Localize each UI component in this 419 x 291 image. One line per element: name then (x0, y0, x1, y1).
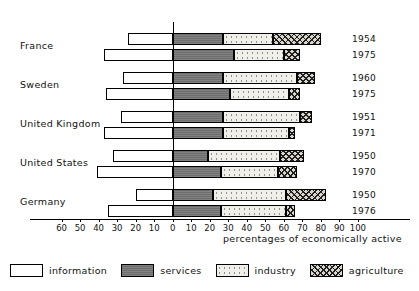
x-axis-tick-label: 30 (107, 223, 127, 233)
chart-legend: informationservicesindustryagriculture (10, 258, 410, 282)
bar-segment-services (173, 150, 208, 162)
bar-segment-agriculture (300, 111, 311, 123)
x-axis-tick-label: 100 (348, 223, 368, 233)
x-axis-tick (191, 219, 192, 222)
bar-row (0, 205, 419, 217)
bar-row (0, 33, 419, 45)
x-axis-tick-label: 60 (274, 223, 294, 233)
legend-item-services: services (121, 264, 201, 277)
x-axis-tick-label: 40 (89, 223, 109, 233)
x-axis-tick (80, 219, 81, 222)
x-axis-tick (173, 219, 174, 222)
bar-segment-information (121, 111, 173, 123)
bar-row (0, 49, 419, 61)
bar-segment-information (128, 33, 172, 45)
bar-segment-information (106, 88, 173, 100)
x-axis-tick-label: 20 (200, 223, 220, 233)
bar-segment-industry (221, 205, 286, 217)
bar-segment-services (173, 72, 223, 84)
x-axis-tick-label: 30 (218, 223, 238, 233)
x-axis-tick-label: 50 (255, 223, 275, 233)
bar-segment-agriculture (278, 166, 297, 178)
x-axis-title: percentages of economically active (223, 233, 402, 244)
bar-segment-industry (223, 33, 273, 45)
bar-row (0, 88, 419, 100)
x-axis-tick (228, 219, 229, 222)
bar-row (0, 166, 419, 178)
x-axis-tick-label: 90 (329, 223, 349, 233)
legend-swatch-services (121, 264, 154, 277)
bar-segment-services (173, 111, 223, 123)
bar-segment-information (97, 166, 173, 178)
x-axis-tick-label: 70 (292, 223, 312, 233)
bar-row (0, 72, 419, 84)
x-axis-tick (339, 219, 340, 222)
x-axis-tick (265, 219, 266, 222)
bar-segment-industry (234, 49, 284, 61)
bar-row (0, 127, 419, 139)
x-axis-tick-label: 50 (70, 223, 90, 233)
x-axis-tick-label: 20 (126, 223, 146, 233)
bar-segment-agriculture (284, 49, 301, 61)
x-axis-tick (117, 219, 118, 222)
legend-label-agriculture: agriculture (349, 265, 404, 276)
bar-segment-industry (221, 166, 278, 178)
legend-label-industry: industry (255, 265, 296, 276)
bar-segment-services (173, 205, 221, 217)
bar-segment-agriculture (286, 205, 295, 217)
bar-segment-agriculture (289, 127, 295, 139)
bar-segment-industry (223, 111, 301, 123)
x-axis-tick-label: 10 (144, 223, 164, 233)
x-axis-tick-label: 80 (311, 223, 331, 233)
bar-segment-agriculture (297, 72, 316, 84)
bar-segment-industry (223, 127, 290, 139)
x-axis-tick (62, 219, 63, 222)
bar-segment-industry (223, 72, 297, 84)
legend-swatch-agriculture (310, 264, 343, 277)
bar-segment-information (136, 189, 173, 201)
x-axis-tick-label: 40 (237, 223, 257, 233)
x-axis-tick (284, 219, 285, 222)
x-axis-tick (247, 219, 248, 222)
zero-reference-line (173, 22, 174, 212)
x-axis-tick (154, 219, 155, 222)
x-axis-tick (136, 219, 137, 222)
bar-segment-agriculture (289, 88, 300, 100)
legend-swatch-industry (216, 264, 249, 277)
x-axis-tick-label: 10 (181, 223, 201, 233)
x-axis-tick (302, 219, 303, 222)
legend-item-industry: industry (216, 264, 296, 277)
x-axis-tick (321, 219, 322, 222)
bar-row (0, 111, 419, 123)
bar-segment-industry (213, 189, 285, 201)
x-axis-tick-label: 0 (163, 223, 183, 233)
legend-label-services: services (160, 265, 201, 276)
x-axis-tick (99, 219, 100, 222)
legend-item-information: information (10, 264, 107, 277)
bar-row (0, 189, 419, 201)
bar-segment-agriculture (273, 33, 321, 45)
bar-segment-industry (230, 88, 289, 100)
bar-segment-agriculture (280, 150, 304, 162)
bar-segment-agriculture (286, 189, 327, 201)
x-axis-tick-label: 60 (52, 223, 72, 233)
x-axis-line (30, 219, 410, 220)
bar-segment-information (104, 127, 173, 139)
bar-segment-services (173, 88, 230, 100)
bar-segment-industry (208, 150, 280, 162)
stacked-bar-chart: FranceSwedenUnited KingdomUnited StatesG… (0, 0, 419, 291)
bar-segment-information (123, 72, 173, 84)
bar-row (0, 150, 419, 162)
bar-segment-information (104, 49, 173, 61)
legend-label-information: information (49, 265, 107, 276)
bar-segment-information (108, 205, 173, 217)
bar-segment-services (173, 166, 221, 178)
x-axis-tick (358, 219, 359, 222)
bar-segment-services (173, 127, 223, 139)
bar-segment-services (173, 33, 223, 45)
legend-swatch-information (10, 264, 43, 277)
legend-item-agriculture: agriculture (310, 264, 404, 277)
bar-segment-information (113, 150, 172, 162)
x-axis-tick (210, 219, 211, 222)
bar-segment-services (173, 189, 214, 201)
